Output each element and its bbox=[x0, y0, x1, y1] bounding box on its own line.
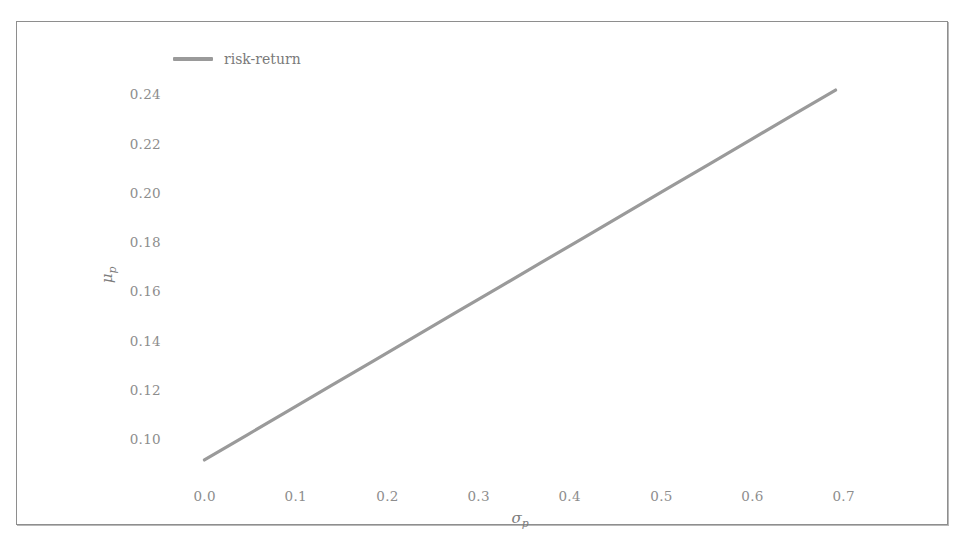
x-tick-label: 0.5 bbox=[650, 488, 672, 504]
y-axis-label-symbol: μ bbox=[98, 274, 116, 284]
y-tick-label: 0.16 bbox=[130, 283, 161, 299]
y-tick-label: 0.18 bbox=[130, 234, 161, 250]
y-tick-label: 0.20 bbox=[130, 185, 161, 201]
y-tick-label: 0.22 bbox=[130, 136, 161, 152]
legend-line-swatch bbox=[173, 57, 213, 61]
plot-area: risk-return 0.24 0.22 0.20 0.18 0.16 0.1… bbox=[175, 74, 865, 476]
x-axis-label: σp bbox=[511, 509, 528, 530]
y-tick-label: 0.12 bbox=[130, 382, 161, 398]
x-tick-label: 0.3 bbox=[467, 488, 489, 504]
x-axis-label-subscript: p bbox=[522, 517, 529, 530]
x-axis-label-symbol: σ bbox=[511, 509, 521, 527]
y-tick-label: 0.10 bbox=[130, 431, 161, 447]
x-tick-label: 0.2 bbox=[376, 488, 398, 504]
x-tick-label: 0.0 bbox=[193, 488, 215, 504]
legend-item-label: risk-return bbox=[224, 51, 301, 67]
y-axis-label-subscript: p bbox=[106, 267, 119, 274]
x-tick-label: 0.6 bbox=[741, 488, 763, 504]
x-tick-label: 0.1 bbox=[285, 488, 307, 504]
x-tick-label: 0.4 bbox=[558, 488, 580, 504]
y-axis-label: μp bbox=[98, 267, 119, 284]
y-tick-label: 0.24 bbox=[130, 86, 161, 102]
legend: risk-return bbox=[173, 51, 301, 67]
figure-frame: risk-return 0.24 0.22 0.20 0.18 0.16 0.1… bbox=[16, 21, 948, 525]
chart-plot-canvas bbox=[175, 74, 865, 476]
y-tick-label: 0.14 bbox=[130, 333, 161, 349]
line-series-risk-return bbox=[204, 90, 835, 460]
x-tick-label: 0.7 bbox=[832, 488, 854, 504]
